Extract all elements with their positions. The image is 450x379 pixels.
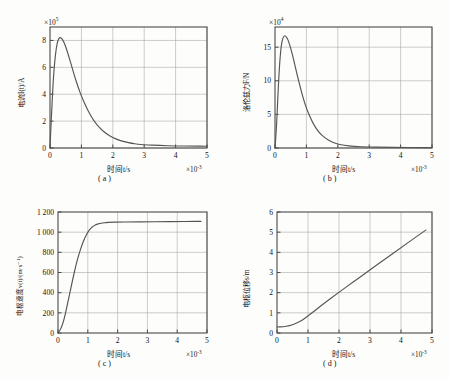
svg-text:0: 0 — [56, 336, 60, 345]
svg-text:6: 6 — [269, 208, 273, 217]
svg-text:10: 10 — [263, 76, 271, 85]
panel-caption-c: ( c ) — [98, 359, 111, 368]
svg-text:2: 2 — [337, 336, 341, 345]
svg-text:800: 800 — [43, 248, 55, 257]
svg-text:0: 0 — [273, 151, 277, 160]
svg-text:0: 0 — [50, 329, 54, 338]
x-axis-label-a: 时间t/s — [107, 163, 130, 174]
svg-text:1 200: 1 200 — [37, 208, 54, 217]
svg-text:1: 1 — [306, 336, 310, 345]
svg-text:4: 4 — [174, 151, 178, 160]
y-axis-label-d: 电枢位移s/m — [241, 270, 251, 308]
x-axis-label-d: 时间t/s — [332, 348, 355, 359]
svg-text:4: 4 — [269, 248, 273, 257]
svg-text:5: 5 — [269, 228, 273, 237]
svg-text:3: 3 — [367, 151, 371, 160]
panel-caption-d: ( d ) — [323, 359, 336, 368]
svg-text:2: 2 — [336, 151, 340, 160]
svg-text:2: 2 — [269, 288, 273, 297]
svg-text:0: 0 — [275, 336, 279, 345]
svg-text:0: 0 — [269, 329, 273, 338]
panel-caption-a: ( a ) — [98, 174, 111, 183]
svg-text:0: 0 — [42, 144, 46, 153]
plot-a: 01234502468 — [0, 0, 225, 190]
y-exponent-b: ×104 — [269, 16, 283, 27]
x-axis-label-b: 时间t/s — [332, 163, 355, 174]
svg-text:2: 2 — [111, 151, 115, 160]
svg-text:200: 200 — [43, 309, 55, 318]
svg-text:1: 1 — [305, 151, 309, 160]
panel-c: 01234502004006008001 0001 200 电枢速度v(t)/(… — [0, 190, 225, 379]
x-axis-label-c: 时间t/s — [107, 348, 130, 359]
svg-text:4: 4 — [42, 90, 46, 99]
svg-text:6: 6 — [42, 63, 46, 72]
svg-text:0: 0 — [48, 151, 52, 160]
y-axis-label-c: 电枢速度v(t)/(m·s⁻¹) — [14, 256, 24, 316]
svg-text:1: 1 — [269, 309, 273, 318]
panel-b: 012345051015 ×104 洛伦兹力F/N 时间t/s ×10-3 ( … — [225, 0, 450, 190]
svg-text:4: 4 — [399, 336, 403, 345]
svg-text:8: 8 — [42, 36, 46, 45]
svg-text:400: 400 — [43, 288, 55, 297]
svg-text:5: 5 — [267, 110, 271, 119]
x-exponent-a: ×10-3 — [186, 164, 202, 174]
svg-text:2: 2 — [116, 336, 120, 345]
x-exponent-b: ×10-3 — [411, 164, 427, 174]
figure-grid: 01234502468 ×105 电流I(t)/A 时间t/s ×10-3 ( … — [0, 0, 450, 379]
svg-text:1: 1 — [80, 151, 84, 160]
y-axis-label-a: 电流I(t)/A — [16, 78, 26, 108]
y-exponent-a: ×105 — [44, 16, 58, 27]
svg-text:4: 4 — [399, 151, 403, 160]
svg-text:5: 5 — [205, 336, 209, 345]
svg-text:3: 3 — [269, 268, 273, 277]
panel-caption-b: ( b ) — [323, 174, 336, 183]
svg-text:1: 1 — [86, 336, 90, 345]
svg-text:3: 3 — [146, 336, 150, 345]
svg-text:600: 600 — [43, 268, 55, 277]
panel-d: 0123450123456 电枢位移s/m 时间t/s ×10-3 ( d ) — [225, 190, 450, 379]
svg-text:5: 5 — [430, 336, 434, 345]
y-axis-label-b: 洛伦兹力F/N — [241, 73, 251, 112]
svg-text:4: 4 — [175, 336, 179, 345]
svg-text:2: 2 — [42, 117, 46, 126]
svg-text:1 000: 1 000 — [37, 228, 54, 237]
svg-text:3: 3 — [142, 151, 146, 160]
x-exponent-d: ×10-3 — [411, 349, 427, 359]
plot-b: 012345051015 — [225, 0, 450, 190]
svg-text:5: 5 — [430, 151, 434, 160]
svg-text:0: 0 — [267, 144, 271, 153]
svg-text:5: 5 — [205, 151, 209, 160]
svg-text:3: 3 — [368, 336, 372, 345]
svg-text:15: 15 — [263, 43, 271, 52]
panel-a: 01234502468 ×105 电流I(t)/A 时间t/s ×10-3 ( … — [0, 0, 225, 190]
x-exponent-c: ×10-3 — [186, 349, 202, 359]
